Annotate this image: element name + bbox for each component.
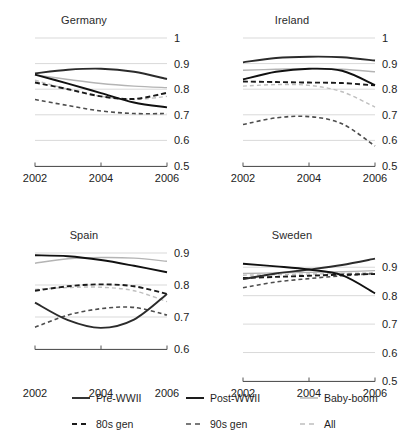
- y-tick-label: 0.8: [174, 279, 189, 291]
- plot-area: [243, 253, 375, 381]
- y-tick-label: 0.9: [382, 58, 397, 70]
- plot-area: [243, 38, 375, 166]
- plot-area: [35, 253, 167, 381]
- y-axis-labels: 10.90.80.70.60.5: [378, 38, 414, 166]
- y-tick-label: 0.8: [382, 290, 397, 302]
- panel-title: Ireland: [208, 14, 376, 26]
- x-tick-label: 2002: [231, 172, 255, 184]
- y-tick-label: 0.6: [382, 347, 397, 359]
- y-tick-label: 0.5: [382, 375, 397, 387]
- y-axis-labels: 10.90.80.70.60.5: [170, 38, 206, 166]
- panel-title: Sweden: [208, 229, 376, 241]
- y-tick-label: 0.9: [382, 261, 397, 273]
- legend-line-swatch: [300, 420, 318, 428]
- x-tick-label: 2002: [23, 172, 47, 184]
- y-tick-label: 0.7: [174, 109, 189, 121]
- legend-item-pre-wwii[interactable]: Pre-WWII: [72, 392, 142, 404]
- panel-title: Germany: [0, 14, 168, 26]
- series-line-80s-gen: [35, 284, 167, 294]
- legend-row: 80s gen90s genAll: [0, 418, 416, 440]
- legend-line-swatch: [186, 420, 204, 428]
- legend-item-baby-boom[interactable]: Baby-boom: [300, 392, 378, 404]
- x-tick-label: 2006: [155, 172, 179, 184]
- panel-germany: Germany10.90.80.70.60.5200220042006: [0, 0, 208, 200]
- x-tick-label: 2004: [297, 172, 321, 184]
- series-line-pre-wwii: [243, 57, 375, 63]
- y-axis-labels: 0.90.80.70.60.5: [378, 253, 414, 381]
- legend-item-post-wwii[interactable]: Post-WWII: [186, 392, 260, 404]
- y-tick-label: 0.6: [174, 343, 189, 355]
- x-axis-labels: 200220042006: [0, 172, 208, 192]
- y-tick-label: 0.6: [382, 134, 397, 146]
- x-tick-label: 2004: [89, 172, 113, 184]
- legend-line-swatch: [72, 394, 90, 402]
- series-line-80s-gen: [35, 83, 167, 100]
- legend-label: 80s gen: [96, 418, 133, 430]
- y-tick-label: 0.8: [174, 83, 189, 95]
- legend-row: Pre-WWIIPost-WWIIBaby-boom: [0, 392, 416, 414]
- legend-label: Baby-boom: [324, 392, 378, 404]
- series-line-90s-gen: [35, 99, 167, 113]
- legend-line-swatch: [186, 394, 204, 402]
- panel-sweden: Sweden0.90.80.70.60.5200220042006: [208, 215, 416, 415]
- legend-item-all[interactable]: All: [300, 418, 336, 430]
- chart-legend: Pre-WWIIPost-WWIIBaby-boom80s gen90s gen…: [0, 392, 416, 446]
- y-tick-label: 0.7: [382, 318, 397, 330]
- legend-label: 90s gen: [210, 418, 247, 430]
- legend-item-80s-gen[interactable]: 80s gen: [72, 418, 133, 430]
- series-line-pre-wwii: [35, 294, 167, 328]
- panel-ireland: Ireland10.90.80.70.60.5200220042006: [208, 0, 416, 200]
- y-tick-label: 1: [382, 32, 388, 44]
- legend-label: All: [324, 418, 336, 430]
- series-line-90s-gen: [243, 116, 375, 146]
- y-tick-label: 0.5: [382, 160, 397, 172]
- plot-area: [35, 38, 167, 166]
- y-tick-label: 0.7: [382, 109, 397, 121]
- y-tick-label: 0.9: [174, 58, 189, 70]
- panel-title: Spain: [0, 229, 168, 241]
- x-tick-label: 2006: [363, 172, 387, 184]
- y-axis-labels: 0.90.80.70.6: [170, 253, 206, 381]
- y-tick-label: 0.7: [174, 311, 189, 323]
- legend-label: Post-WWII: [210, 392, 260, 404]
- y-tick-label: 0.5: [174, 160, 189, 172]
- y-tick-label: 0.8: [382, 83, 397, 95]
- y-tick-label: 1: [174, 32, 180, 44]
- legend-label: Pre-WWII: [96, 392, 142, 404]
- legend-item-90s-gen[interactable]: 90s gen: [186, 418, 247, 430]
- series-line-all: [243, 84, 375, 107]
- x-axis-labels: 200220042006: [208, 172, 416, 192]
- small-multiples-chart: Germany10.90.80.70.60.5200220042006Irela…: [0, 0, 416, 446]
- legend-line-swatch: [72, 420, 90, 428]
- y-tick-label: 0.9: [174, 247, 189, 259]
- series-line-post-wwii: [35, 75, 167, 108]
- legend-line-swatch: [300, 394, 318, 402]
- panel-spain: Spain0.90.80.70.6200220042006: [0, 215, 208, 415]
- y-tick-label: 0.6: [174, 134, 189, 146]
